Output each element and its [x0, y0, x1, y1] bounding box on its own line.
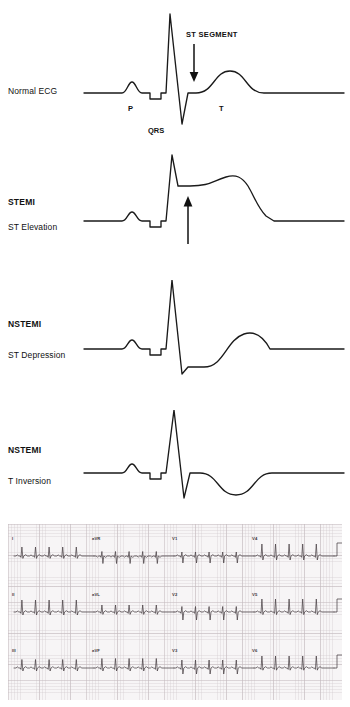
qrs-complex-label: QRS — [148, 126, 164, 135]
ecg-lead-trace-V1 — [174, 552, 254, 563]
calibration-pulse — [334, 655, 342, 668]
calibration-pulse — [334, 599, 342, 612]
ecg-lead-trace-aVR — [94, 552, 174, 564]
st-segment-annotation: ST SEGMENT — [186, 30, 238, 39]
p-wave-label: P — [128, 104, 133, 113]
panel-stemi: STEMI ST Elevation — [0, 150, 350, 280]
ecg-lead-trace-V2 — [174, 607, 254, 621]
ecg-lead-trace-V4 — [254, 544, 334, 560]
panel-nstemi-t-inversion: NSTEMI T Inversion — [0, 410, 350, 524]
stemi-trace — [78, 150, 350, 280]
st-elevation-arrow-up-icon — [180, 196, 196, 244]
ecg-strip-traces — [8, 524, 342, 700]
ecg-lead-trace-V6 — [254, 656, 334, 670]
ecg-lead-trace-aVL — [94, 605, 174, 614]
nstemi-t-inversion-trace — [78, 410, 350, 524]
panel-normal-ecg: Normal ECG ST SEGMENT P QRS T — [0, 0, 350, 148]
ecg-lead-trace-III — [14, 660, 94, 672]
ecg-lead-trace-V3 — [174, 660, 254, 674]
normal-ecg-trace — [78, 0, 350, 148]
ecg-lead-trace-V5 — [254, 599, 334, 615]
panel-nstemi-st-depression: NSTEMI ST Depression — [0, 280, 350, 410]
st-segment-arrow-down-icon — [186, 44, 202, 84]
nstemi-st-depression-trace — [78, 280, 350, 410]
ecg-lead-trace-II — [14, 600, 94, 615]
t-wave-label: T — [219, 104, 224, 113]
ecg-lead-trace-I — [14, 547, 94, 558]
ecg-lead-trace-aVF — [94, 659, 174, 672]
twelve-lead-ecg-strip: I aVR V1 V4 II aVL V2 V5 III aVF V3 V6 — [8, 524, 342, 700]
calibration-pulse — [334, 543, 342, 556]
